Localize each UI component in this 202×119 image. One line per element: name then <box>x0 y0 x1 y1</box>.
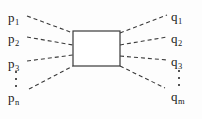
leg-p3 <box>27 55 73 61</box>
subscript: 2 <box>178 38 182 48</box>
label-q2: q2 <box>171 32 182 45</box>
leg-q1 <box>120 15 167 33</box>
subscript: 1 <box>15 17 19 27</box>
ellipsis-dot <box>15 85 17 87</box>
leg-q3 <box>120 56 167 60</box>
label-q1: q1 <box>171 10 182 23</box>
label-p1: p1 <box>8 11 19 24</box>
leg-q2 <box>120 37 167 45</box>
ellipsis-dot <box>178 84 180 86</box>
leg-qm <box>120 66 165 88</box>
ellipsis-dot <box>178 77 180 79</box>
subscript: 2 <box>15 38 19 48</box>
outgoing-ellipsis <box>177 70 180 86</box>
label-p2: p2 <box>8 32 19 45</box>
ellipsis-dot <box>15 78 17 80</box>
leg-pn <box>29 66 73 89</box>
leg-p2 <box>27 37 73 45</box>
scattering-diagram-figure: p1 p2 p3 pn q1 q2 q3 qm <box>0 0 202 119</box>
subscript: m <box>178 96 185 106</box>
label-pn: pn <box>8 91 19 104</box>
ellipsis-dot <box>15 71 17 73</box>
ellipsis-dot <box>178 70 180 72</box>
incoming-ellipsis <box>14 71 17 87</box>
interaction-blob-rectangle <box>73 31 120 66</box>
leg-p1 <box>27 16 73 33</box>
subscript: n <box>15 97 19 107</box>
subscript: 1 <box>178 16 182 26</box>
label-q3: q3 <box>171 55 182 68</box>
label-qm: qm <box>171 90 184 103</box>
label-p3: p3 <box>8 57 19 70</box>
